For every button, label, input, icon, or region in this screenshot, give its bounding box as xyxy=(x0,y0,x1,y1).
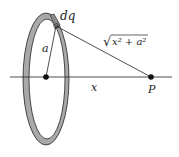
hypotenuse-label: √ x² + a² xyxy=(103,34,148,49)
sqrt-expression: x² + a² xyxy=(112,36,146,47)
dq-label: dq xyxy=(60,9,76,23)
radius-label: a xyxy=(42,42,49,55)
distance-label: x xyxy=(91,81,98,94)
point-label: P xyxy=(147,83,156,96)
sqrt-sign: √ xyxy=(103,34,112,49)
point-p xyxy=(148,74,154,80)
center-point xyxy=(43,74,49,80)
ring-diagram: dq a x P √ x² + a² xyxy=(0,0,179,157)
